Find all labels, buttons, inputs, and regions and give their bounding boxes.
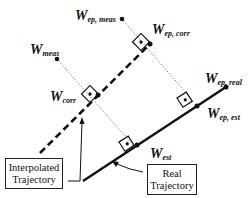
interpolated-box-line1: Interpolated: [6, 162, 62, 174]
label-base: W: [150, 146, 162, 161]
point-ep-meas: [120, 17, 125, 22]
label-meas: Wmeas: [30, 41, 59, 58]
label-base: W: [152, 22, 164, 37]
label-subscript: ep, est: [219, 113, 239, 122]
interpolated-trajectory-box: Interpolated Trajectory: [5, 158, 63, 189]
point-corr: [96, 93, 101, 98]
point-ep-est: [195, 104, 200, 109]
real-pointer-curve: [117, 164, 143, 172]
real-trajectory-box: Real Trajectory: [147, 164, 197, 195]
label-subscript: meas: [42, 49, 59, 58]
label-est: West: [150, 145, 171, 162]
label-subscript: est: [162, 153, 171, 162]
point-ep-corr: [148, 42, 153, 47]
label-subscript: ep, corr: [164, 29, 189, 38]
label-ep-meas: Wep, meas: [75, 7, 116, 24]
real-box-line2: Trajectory: [148, 180, 196, 192]
label-base: W: [205, 71, 217, 86]
label-ep-real: Wep, real: [205, 70, 242, 87]
interpolated-pointer-arrowhead: [80, 117, 85, 124]
interpolated-box-line2: Trajectory: [6, 174, 62, 186]
real-box-line1: Real: [148, 168, 196, 180]
label-base: W: [207, 106, 219, 121]
label-ep-corr: Wep, corr: [152, 21, 190, 38]
right-angle-marker-ep-est: [177, 92, 192, 107]
interpolated-pointer-line: [68, 122, 82, 181]
point-est: [135, 143, 140, 148]
label-base: W: [50, 89, 62, 104]
diagram-canvas: Wep, meas Wep, corr Wmeas Wcorr Wep, rea…: [0, 0, 248, 198]
label-subscript: ep, real: [217, 78, 241, 87]
label-subscript: ep, meas: [87, 15, 115, 24]
label-ep-est: Wep, est: [207, 105, 240, 122]
label-base: W: [30, 42, 42, 57]
label-corr: Wcorr: [50, 88, 76, 105]
label-subscript: corr: [62, 96, 76, 105]
label-base: W: [75, 8, 87, 23]
